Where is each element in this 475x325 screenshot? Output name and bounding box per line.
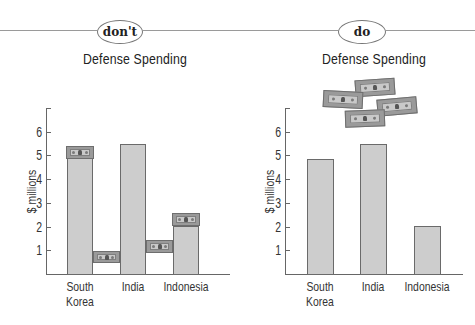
category-label-line1: India bbox=[349, 279, 397, 294]
dont-category-india: India bbox=[109, 279, 157, 294]
divider-left bbox=[0, 30, 97, 31]
dont-y-axis-top-cap bbox=[46, 108, 51, 109]
dont-bar-india bbox=[120, 144, 146, 275]
dont-tick-label-1: 1 bbox=[32, 243, 43, 257]
dont-tick-label-4: 4 bbox=[32, 172, 43, 186]
category-label-line2: Korea bbox=[296, 294, 344, 309]
category-label-line1: South bbox=[56, 279, 104, 294]
category-label-line2: Korea bbox=[56, 294, 104, 309]
divider-right bbox=[386, 30, 475, 31]
do-tick-2 bbox=[285, 227, 290, 228]
dont-tick-4 bbox=[46, 179, 51, 180]
dont-bar-indonesia bbox=[173, 226, 199, 275]
dollar-bill-icon bbox=[345, 109, 386, 127]
dont-bar-south-korea bbox=[67, 158, 93, 275]
do-tick-5 bbox=[285, 155, 290, 156]
dont-tick-label-5: 5 bbox=[32, 148, 43, 162]
do-bar-india bbox=[360, 144, 387, 275]
do-y-axis-top-cap bbox=[285, 108, 290, 109]
do-tick-label-1: 1 bbox=[271, 243, 282, 257]
do-tick-6 bbox=[285, 132, 290, 133]
do-category-south-korea: South Korea bbox=[296, 279, 344, 309]
category-label-line1: South bbox=[296, 279, 344, 294]
dont-category-south-korea: South Korea bbox=[56, 279, 104, 309]
dollar-bill-icon bbox=[93, 251, 120, 263]
dont-tick-label-3: 3 bbox=[32, 196, 43, 210]
dont-tick-1 bbox=[46, 250, 51, 251]
dont-category-indonesia: Indonesia bbox=[162, 279, 210, 294]
do-category-india: India bbox=[349, 279, 397, 294]
do-tick-label-4: 4 bbox=[271, 172, 282, 186]
dollar-bill-icon bbox=[323, 90, 364, 109]
dont-chart-title: Defense Spending bbox=[69, 50, 200, 67]
dont-tick-label-2: 2 bbox=[32, 220, 43, 234]
dont-tick-6 bbox=[46, 132, 51, 133]
do-tick-4 bbox=[285, 179, 290, 180]
do-bar-south-korea bbox=[307, 159, 334, 275]
do-tick-label-5: 5 bbox=[271, 148, 282, 162]
do-tick-1 bbox=[285, 250, 290, 251]
do-badge: do bbox=[338, 20, 386, 44]
dollar-bill-icon bbox=[66, 146, 94, 159]
dont-tick-2 bbox=[46, 227, 51, 228]
do-badge-label: do bbox=[354, 25, 370, 39]
category-label-line1: Indonesia bbox=[403, 279, 451, 294]
do-tick-3 bbox=[285, 203, 290, 204]
do-category-indonesia: Indonesia bbox=[403, 279, 451, 294]
dont-tick-3 bbox=[46, 203, 51, 204]
category-label-line1: Indonesia bbox=[162, 279, 210, 294]
divider-middle bbox=[143, 30, 338, 31]
do-tick-label-3: 3 bbox=[271, 196, 282, 210]
dont-badge: don't bbox=[97, 20, 143, 44]
do-tick-label-6: 6 bbox=[271, 125, 282, 139]
dont-tick-5 bbox=[46, 155, 51, 156]
do-tick-label-2: 2 bbox=[271, 220, 282, 234]
dollar-bill-icon bbox=[172, 213, 200, 226]
dollar-bill-icon bbox=[146, 240, 173, 253]
category-label-line1: India bbox=[109, 279, 157, 294]
do-bar-indonesia bbox=[414, 226, 441, 275]
do-chart-title: Defense Spending bbox=[308, 50, 439, 67]
dont-tick-label-6: 6 bbox=[32, 125, 43, 139]
dont-badge-label: don't bbox=[103, 25, 137, 39]
